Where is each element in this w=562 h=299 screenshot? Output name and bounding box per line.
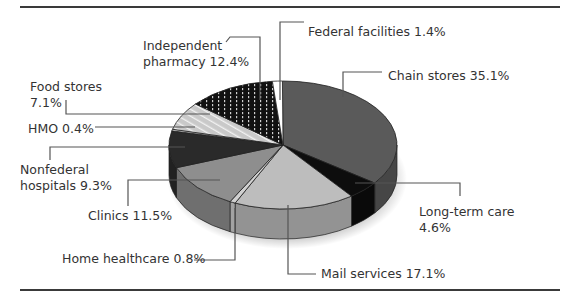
label-long-term-line1: Long-term care	[419, 204, 515, 220]
label-mail-services: Mail services 17.1%	[321, 266, 445, 282]
label-nonfederal-line1: Nonfederal	[20, 162, 112, 178]
label-independent-pharmacy: Independent pharmacy 12.4%	[143, 38, 249, 70]
pie-top	[169, 81, 397, 209]
label-nonfederal-line2: hospitals 9.3%	[20, 178, 112, 194]
label-food-line1: Food stores	[30, 79, 102, 95]
label-food-line2: 7.1%	[30, 95, 102, 111]
label-chain-stores: Chain stores 35.1%	[388, 68, 510, 84]
label-nonfederal-hospitals: Nonfederal hospitals 9.3%	[20, 162, 112, 194]
label-clinics: Clinics 11.5%	[88, 208, 172, 224]
label-federal-facilities: Federal facilities 1.4%	[308, 24, 446, 40]
label-long-term-line2: 4.6%	[419, 220, 515, 236]
label-independent-line2: pharmacy 12.4%	[143, 54, 249, 70]
label-long-term-care: Long-term care 4.6%	[419, 204, 515, 236]
label-hmo: HMO 0.4%	[28, 121, 94, 137]
label-independent-line1: Independent	[143, 38, 249, 54]
label-food-stores: Food stores 7.1%	[30, 79, 102, 111]
pie-side-home-healthcare	[230, 202, 235, 233]
label-home-healthcare: Home healthcare 0.8%	[62, 251, 205, 267]
leader-line	[50, 147, 185, 160]
